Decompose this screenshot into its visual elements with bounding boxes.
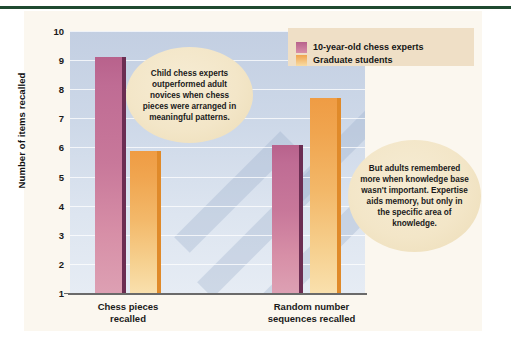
callout-text: Child chess experts outperformed adult n… [126, 68, 253, 123]
x-tick-label-line2: sequences recalled [244, 313, 379, 325]
y-tick-label: 8 [38, 84, 64, 95]
y-tick-mark [64, 293, 69, 294]
legend-label: Graduate students [313, 55, 393, 65]
bar-face [310, 98, 337, 293]
callout-bubble-child-experts: Child chess experts outperformed adult n… [126, 47, 253, 143]
x-tick-label-line1: Random number [244, 301, 379, 313]
callout-bubble-adults: But adults remembered more when knowledg… [348, 140, 481, 252]
x-tick-label-chess: Chess pieces recalled [68, 301, 188, 325]
y-tick-label: 7 [38, 113, 64, 124]
y-tick-label: 6 [38, 142, 64, 153]
y-tick-label: 5 [38, 172, 64, 183]
legend-entry-experts: 10-year-old chess experts [296, 41, 424, 53]
y-tick-label: 4 [38, 201, 64, 212]
bar-side [299, 145, 303, 293]
bar-face [130, 151, 157, 293]
y-tick-label: 9 [38, 55, 64, 66]
y-tick-label: 10 [38, 26, 64, 37]
legend-swatch-orange-icon [296, 55, 307, 66]
callout-text: But adults remembered more when knowledg… [348, 163, 481, 229]
bar-graduates-chess [130, 151, 157, 293]
bar-face [95, 57, 122, 293]
top-rule-divider [0, 6, 511, 9]
y-axis-ticks: 10 9 8 7 6 5 4 3 2 1 [36, 0, 64, 357]
chart-legend: 10-year-old chess experts Graduate stude… [288, 28, 474, 66]
y-tick-label: 1 [38, 288, 64, 299]
y-tick-label: 2 [38, 259, 64, 270]
x-axis-line [68, 293, 367, 295]
bar-face [272, 145, 299, 293]
bar-experts-random [272, 145, 299, 293]
legend-label: 10-year-old chess experts [313, 42, 424, 52]
y-axis-title: Number of items recalled [16, 46, 27, 216]
x-tick-label-line1: Chess pieces [68, 301, 188, 313]
legend-entry-graduates: Graduate students [296, 54, 393, 66]
bar-graduates-random [310, 98, 337, 293]
y-tick-label: 3 [38, 230, 64, 241]
x-tick-label-random: Random number sequences recalled [244, 301, 379, 325]
chart-figure: 10 9 8 7 6 5 4 3 2 1 Number of items rec… [0, 0, 511, 357]
bar-experts-chess [95, 57, 122, 293]
bar-side [337, 98, 341, 293]
legend-swatch-pink-icon [296, 42, 307, 53]
x-tick-label-line2: recalled [68, 313, 188, 325]
bar-side [157, 151, 161, 293]
